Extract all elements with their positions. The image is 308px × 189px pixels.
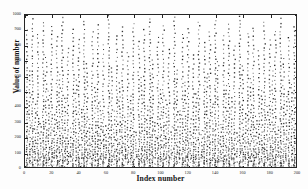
- y-axis-label: Value of number: [12, 12, 21, 122]
- y-tick-label: 100: [0, 150, 21, 154]
- chart-figure: 01002003004005006007008009001000 0204060…: [0, 0, 308, 189]
- y-tick-label: 0: [0, 166, 21, 170]
- y-tick-label: 200: [0, 135, 21, 139]
- x-axis-label: Index number: [24, 174, 297, 183]
- scatter-plot-canvas: [25, 15, 297, 168]
- plot-area: [24, 14, 297, 168]
